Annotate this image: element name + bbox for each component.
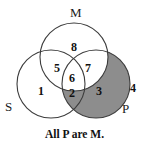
region-number-p-only: 3	[96, 85, 102, 97]
set-label-p: P	[122, 102, 129, 115]
venn-diagram-figure: M S P 85761234 All P are M.	[0, 0, 149, 145]
set-label-m: M	[70, 6, 82, 19]
region-number-s-and-p: 2	[69, 87, 75, 99]
region-number-outside-all: 4	[130, 82, 136, 94]
region-number-m-only: 8	[71, 41, 77, 53]
region-number-s-and-m: 5	[54, 62, 60, 74]
region-number-m-and-p: 7	[85, 62, 91, 74]
region-number-s-m-and-p: 6	[69, 72, 75, 84]
set-label-s: S	[5, 100, 12, 113]
figure-caption: All P are M.	[0, 129, 149, 141]
region-number-s-only: 1	[38, 85, 44, 97]
